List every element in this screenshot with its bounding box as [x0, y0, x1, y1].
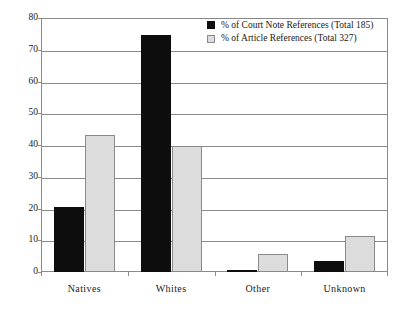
legend-label: % of Court Note References (Total 185): [221, 20, 373, 30]
bar-whites-series-1: [141, 35, 171, 272]
bar-natives-series-2: [85, 135, 115, 272]
bar-unknown-series-1: [314, 261, 344, 272]
y-tick-label: 70: [4, 45, 38, 55]
legend-label: % of Article References (Total 327): [221, 33, 357, 43]
y-tick-label: 60: [4, 77, 38, 87]
legend-item-1: % of Court Note References (Total 185): [207, 20, 373, 30]
legend-item-2: % of Article References (Total 327): [207, 33, 373, 43]
y-tick-label: 20: [4, 204, 38, 214]
y-tick-label: 30: [4, 172, 38, 182]
y-tick-label: 0: [4, 267, 38, 277]
legend-swatch-icon: [207, 21, 215, 29]
x-tick-mark: [128, 272, 129, 276]
bar-chart: 01020304050607080 NativesWhitesOtherUnkn…: [0, 0, 402, 309]
x-axis: NativesWhitesOtherUnknown: [41, 272, 388, 302]
y-tick-label: 10: [4, 236, 38, 246]
bar-unknown-series-2: [345, 236, 375, 272]
y-axis: 01020304050607080: [0, 18, 38, 272]
x-tick-label-unknown: Unknown: [324, 283, 366, 294]
x-tick-mark: [215, 272, 216, 276]
bar-other-series-2: [258, 254, 288, 272]
y-tick-label: 80: [4, 13, 38, 23]
y-tick-label: 40: [4, 140, 38, 150]
legend-swatch-icon: [207, 35, 215, 43]
bar-whites-series-2: [172, 146, 202, 272]
x-tick-mark: [301, 272, 302, 276]
chart-legend: % of Court Note References (Total 185)% …: [207, 20, 373, 44]
x-tick-label-whites: Whites: [156, 283, 187, 294]
bars-layer: [41, 18, 388, 272]
x-tick-label-natives: Natives: [68, 283, 101, 294]
x-tick-label-other: Other: [245, 283, 270, 294]
bar-natives-series-1: [54, 207, 84, 272]
x-tick-mark: [387, 272, 388, 276]
x-tick-mark: [41, 272, 42, 276]
y-tick-label: 50: [4, 109, 38, 119]
